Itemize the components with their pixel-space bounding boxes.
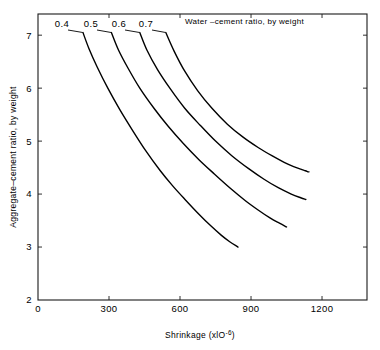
y-tick-label: 7 (26, 30, 32, 41)
leader-line-0-4 (68, 30, 83, 33)
x-axis-title: Shrinkage (xlO-6) (165, 329, 235, 341)
leader-line-0-7 (152, 30, 166, 33)
leader-line-0-5 (97, 30, 111, 33)
y-tick-label: 3 (26, 241, 32, 252)
tick-labels: 03006009001200234567 (26, 30, 333, 314)
chart-canvas: 03006009001200234567 0.40.50.60.7 Water … (0, 0, 380, 350)
curve-0-6 (140, 33, 306, 200)
y-axis-title: Aggregate–cement ratio, by weight (8, 86, 18, 228)
x-axis-title-close: ) (232, 330, 235, 340)
x-tick-label: 300 (100, 303, 117, 314)
x-tick-label: 600 (171, 303, 188, 314)
y-tick-label: 4 (26, 188, 32, 199)
y-tick-label: 6 (26, 83, 32, 94)
curve-label-0-6: 0.6 (112, 18, 126, 29)
curve-labels: 0.40.50.60.7 (55, 18, 153, 29)
curve-label-0-4: 0.4 (55, 18, 69, 29)
x-tick-label: 1200 (311, 303, 334, 314)
axis-ticks (38, 14, 367, 300)
x-tick-label: 900 (242, 303, 259, 314)
curve-label-0-5: 0.5 (84, 18, 98, 29)
y-tick-label: 2 (26, 294, 32, 305)
data-curves (68, 30, 309, 247)
axis-box (38, 14, 367, 300)
x-tick-label: 0 (35, 303, 41, 314)
curve-0-5 (111, 33, 286, 227)
curve-label-0-7: 0.7 (139, 18, 153, 29)
x-axis-title-base: Shrinkage (xlO (165, 330, 226, 340)
chart-figure: 03006009001200234567 0.40.50.60.7 Water … (0, 0, 380, 350)
legend-title: Water –cement ratio, by weight (185, 17, 304, 26)
y-tick-label: 5 (26, 136, 32, 147)
plot-frame (38, 14, 367, 300)
curve-0-7 (166, 33, 309, 172)
leader-line-0-6 (125, 30, 140, 33)
